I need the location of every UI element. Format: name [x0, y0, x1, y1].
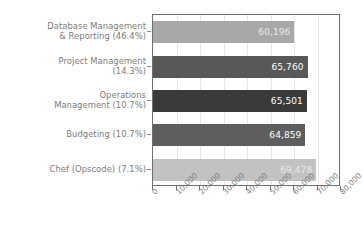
category-label: Database Management & Reporting (46.4%) [0, 21, 146, 41]
category-label: Budgeting (10.7%) [0, 129, 146, 139]
category-tick [147, 66, 151, 67]
category-tick [147, 169, 151, 170]
category-label: Chef (Opscode) (7.1%) [0, 164, 146, 174]
category-label-text: Budgeting (10.7%) [0, 129, 146, 139]
x-axis-tick-label: 80,000 [338, 171, 363, 196]
category-tick [147, 100, 151, 101]
category-tick [147, 134, 151, 135]
category-tick [147, 31, 151, 32]
bar: 64,859 [153, 124, 305, 146]
category-label-text: Operations Management (10.7%) [0, 90, 146, 110]
category-label: Operations Management (10.7%) [0, 90, 146, 110]
gridline [318, 15, 319, 185]
bar-value-label: 65,501 [271, 96, 307, 106]
category-label: Project Management (14.3%) [0, 56, 146, 76]
bar: 60,196 [153, 21, 294, 43]
plot-area: 60,19665,76065,50164,85969,478 [152, 14, 340, 186]
category-label-text: Project Management (14.3%) [0, 56, 146, 76]
bar-value-label: 65,760 [271, 62, 307, 72]
bar: 65,760 [153, 56, 308, 78]
category-label-text: Database Management & Reporting (46.4%) [0, 21, 146, 41]
x-axis-tick-labels: 010,00020,00030,00040,00050,00060,00070,… [0, 190, 355, 233]
category-axis-labels: Database Management & Reporting (46.4%)P… [0, 14, 146, 186]
category-label-text: Chef (Opscode) (7.1%) [0, 164, 146, 174]
bar-value-label: 60,196 [258, 27, 294, 37]
bar: 65,501 [153, 90, 307, 112]
bar-value-label: 64,859 [269, 130, 305, 140]
